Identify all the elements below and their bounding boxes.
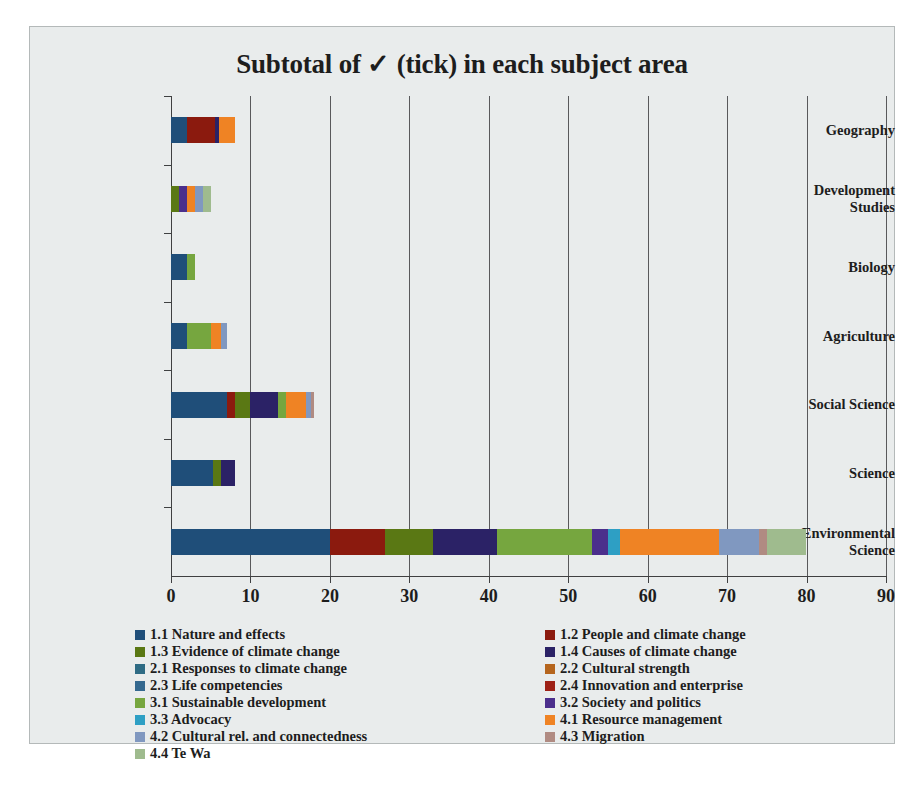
x-tick-20 — [330, 576, 331, 583]
bar-development-studies[interactable] — [171, 186, 211, 212]
bar-segment[interactable] — [213, 460, 221, 486]
x-tick-label-70: 70 — [697, 586, 757, 607]
bar-science[interactable] — [171, 460, 235, 486]
bar-segment[interactable] — [250, 392, 278, 418]
y-tick-4 — [164, 370, 171, 371]
legend-label: 1.3 Evidence of climate change — [150, 643, 340, 660]
bar-geography[interactable] — [171, 117, 235, 143]
bar-segment[interactable] — [385, 529, 433, 555]
x-tick-label-30: 30 — [379, 586, 439, 607]
bar-environmental-science[interactable] — [171, 529, 806, 555]
legend-item[interactable]: 1.1 Nature and effects — [135, 626, 367, 643]
legend-item[interactable]: 1.4 Causes of climate change — [545, 643, 746, 660]
legend-item[interactable]: 3.2 Society and politics — [545, 694, 746, 711]
bar-social-science[interactable] — [171, 392, 314, 418]
bar-segment[interactable] — [227, 392, 235, 418]
chart-legend: 1.1 Nature and effects1.3 Evidence of cl… — [29, 626, 895, 744]
bar-segment[interactable] — [195, 186, 203, 212]
legend-label: 1.2 People and climate change — [560, 626, 746, 643]
bar-segment[interactable] — [286, 392, 306, 418]
bar-biology[interactable] — [171, 254, 195, 280]
legend-swatch-icon — [135, 681, 145, 691]
bar-segment[interactable] — [219, 117, 235, 143]
bar-segment[interactable] — [187, 186, 195, 212]
bar-segment[interactable] — [221, 323, 227, 349]
legend-item[interactable]: 4.4 Te Wa — [135, 745, 367, 762]
legend-swatch-icon — [135, 749, 145, 759]
legend-label: 3.1 Sustainable development — [150, 694, 326, 711]
bar-segment[interactable] — [171, 254, 187, 280]
legend-item[interactable]: 4.3 Migration — [545, 728, 746, 745]
legend-swatch-icon — [135, 647, 145, 657]
bar-segment[interactable] — [311, 392, 314, 418]
bar-segment[interactable] — [171, 529, 330, 555]
y-tick-2 — [164, 233, 171, 234]
bar-segment[interactable] — [592, 529, 608, 555]
category-label-social-science: Social Science — [767, 396, 895, 413]
legend-label: 4.1 Resource management — [560, 711, 722, 728]
y-tick-1 — [164, 165, 171, 166]
bar-segment[interactable] — [620, 529, 719, 555]
y-tick-5 — [164, 439, 171, 440]
legend-swatch-icon — [135, 664, 145, 674]
bar-segment[interactable] — [330, 529, 386, 555]
gridline-50 — [568, 96, 569, 576]
legend-swatch-icon — [545, 681, 555, 691]
bar-segment[interactable] — [719, 529, 759, 555]
bar-segment[interactable] — [171, 460, 213, 486]
bar-segment[interactable] — [171, 392, 227, 418]
legend-item[interactable]: 4.2 Cultural rel. and connectedness — [135, 728, 367, 745]
legend-swatch-icon — [135, 698, 145, 708]
legend-swatch-icon — [135, 732, 145, 742]
bar-segment[interactable] — [171, 117, 187, 143]
legend-item[interactable]: 2.1 Responses to climate change — [135, 660, 367, 677]
legend-item[interactable]: 1.3 Evidence of climate change — [135, 643, 367, 660]
x-tick-label-0: 0 — [141, 586, 201, 607]
bar-segment[interactable] — [433, 529, 497, 555]
bar-agriculture[interactable] — [171, 323, 227, 349]
bar-segment[interactable] — [171, 186, 179, 212]
legend-label: 4.3 Migration — [560, 728, 645, 745]
bar-segment[interactable] — [497, 529, 592, 555]
legend-item[interactable]: 2.4 Innovation and enterprise — [545, 677, 746, 694]
legend-column-right: 1.2 People and climate change1.4 Causes … — [545, 626, 746, 745]
legend-item[interactable]: 2.2 Cultural strength — [545, 660, 746, 677]
x-tick-50 — [568, 576, 569, 583]
legend-label: 2.2 Cultural strength — [560, 660, 690, 677]
x-tick-label-40: 40 — [459, 586, 519, 607]
bar-segment[interactable] — [187, 117, 215, 143]
bar-segment[interactable] — [759, 529, 767, 555]
bar-segment[interactable] — [221, 460, 235, 486]
category-label-science: Science — [767, 465, 895, 482]
gridline-10 — [250, 96, 251, 576]
bar-segment[interactable] — [179, 186, 187, 212]
bar-segment[interactable] — [211, 323, 221, 349]
category-label-development-studies: DevelopmentStudies — [767, 182, 895, 216]
x-tick-30 — [409, 576, 410, 583]
legend-item[interactable]: 3.1 Sustainable development — [135, 694, 367, 711]
legend-label: 1.4 Causes of climate change — [560, 643, 737, 660]
x-tick-label-20: 20 — [300, 586, 360, 607]
bar-segment[interactable] — [171, 323, 187, 349]
legend-item[interactable]: 4.1 Resource management — [545, 711, 746, 728]
legend-label: 4.4 Te Wa — [150, 745, 211, 762]
y-tick-6 — [164, 507, 171, 508]
bar-segment[interactable] — [278, 392, 286, 418]
legend-item[interactable]: 2.3 Life competencies — [135, 677, 367, 694]
legend-column-left: 1.1 Nature and effects1.3 Evidence of cl… — [135, 626, 367, 762]
bar-segment[interactable] — [767, 529, 807, 555]
bar-segment[interactable] — [187, 323, 211, 349]
legend-item[interactable]: 3.3 Advocacy — [135, 711, 367, 728]
legend-item[interactable]: 1.2 People and climate change — [545, 626, 746, 643]
gridline-30 — [409, 96, 410, 576]
legend-label: 3.3 Advocacy — [150, 711, 231, 728]
bar-segment[interactable] — [203, 186, 211, 212]
bar-segment[interactable] — [187, 254, 195, 280]
legend-label: 3.2 Society and politics — [560, 694, 701, 711]
bar-segment[interactable] — [608, 529, 620, 555]
x-tick-0 — [171, 576, 172, 583]
bar-segment[interactable] — [235, 392, 251, 418]
gridline-20 — [330, 96, 331, 576]
legend-swatch-icon — [545, 715, 555, 725]
legend-label: 4.2 Cultural rel. and connectedness — [150, 728, 367, 745]
